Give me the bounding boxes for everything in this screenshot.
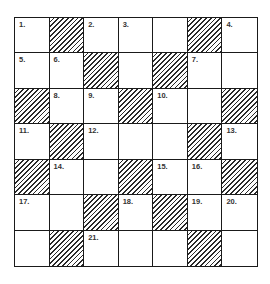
answer-cell[interactable]: 16.: [188, 160, 223, 195]
answer-cell[interactable]: 5.: [15, 53, 50, 88]
blocked-cell: [222, 89, 257, 124]
answer-cell[interactable]: 2.: [84, 18, 119, 53]
answer-cell[interactable]: 13.: [222, 124, 257, 159]
clue-number: 16.: [192, 163, 202, 171]
clue-number: 18.: [123, 198, 133, 206]
clue-number: 19.: [192, 198, 202, 206]
answer-cell[interactable]: [153, 231, 188, 266]
blocked-cell: [50, 18, 85, 53]
answer-cell[interactable]: 1.: [15, 18, 50, 53]
answer-cell[interactable]: 3.: [119, 18, 154, 53]
answer-cell[interactable]: 17.: [15, 195, 50, 230]
answer-cell[interactable]: 10.: [153, 89, 188, 124]
answer-cell[interactable]: 18.: [119, 195, 154, 230]
blocked-cell: [84, 53, 119, 88]
clue-number: 14.: [54, 163, 64, 171]
answer-cell[interactable]: 7.: [188, 53, 223, 88]
clue-number: 13.: [226, 127, 236, 135]
answer-cell[interactable]: [50, 195, 85, 230]
clue-number: 8.: [54, 92, 60, 100]
blocked-cell: [188, 231, 223, 266]
blocked-cell: [188, 124, 223, 159]
clue-number: 2.: [88, 21, 94, 29]
clue-number: 17.: [19, 198, 29, 206]
clue-number: 6.: [54, 56, 60, 64]
answer-cell[interactable]: [15, 231, 50, 266]
clue-number: 12.: [88, 127, 98, 135]
answer-cell[interactable]: [153, 124, 188, 159]
clue-number: 9.: [88, 92, 94, 100]
answer-cell[interactable]: [222, 231, 257, 266]
answer-cell[interactable]: 4.: [222, 18, 257, 53]
answer-cell[interactable]: [119, 53, 154, 88]
answer-cell[interactable]: 12.: [84, 124, 119, 159]
answer-cell[interactable]: [84, 160, 119, 195]
blocked-cell: [119, 89, 154, 124]
answer-cell[interactable]: 20.: [222, 195, 257, 230]
answer-cell[interactable]: 21.: [84, 231, 119, 266]
answer-cell[interactable]: 8.: [50, 89, 85, 124]
clue-number: 4.: [226, 21, 232, 29]
crossword-grid: 1.2.3.4.5.6.7.8.9.10.11.12.13.14.15.16.1…: [14, 17, 258, 267]
answer-cell[interactable]: [119, 124, 154, 159]
blocked-cell: [153, 53, 188, 88]
answer-cell[interactable]: 6.: [50, 53, 85, 88]
blocked-cell: [84, 195, 119, 230]
blocked-cell: [119, 160, 154, 195]
clue-number: 3.: [123, 21, 129, 29]
answer-cell[interactable]: 14.: [50, 160, 85, 195]
blocked-cell: [188, 18, 223, 53]
answer-cell[interactable]: [222, 53, 257, 88]
clue-number: 11.: [19, 127, 29, 135]
clue-number: 15.: [157, 163, 167, 171]
blocked-cell: [222, 160, 257, 195]
blocked-cell: [153, 195, 188, 230]
answer-cell[interactable]: 11.: [15, 124, 50, 159]
answer-cell[interactable]: [119, 231, 154, 266]
answer-cell[interactable]: 9.: [84, 89, 119, 124]
answer-cell[interactable]: [153, 18, 188, 53]
answer-cell[interactable]: 19.: [188, 195, 223, 230]
blocked-cell: [15, 160, 50, 195]
answer-cell[interactable]: [188, 89, 223, 124]
answer-cell[interactable]: 15.: [153, 160, 188, 195]
clue-number: 10.: [157, 92, 167, 100]
blocked-cell: [50, 231, 85, 266]
clue-number: 1.: [19, 21, 25, 29]
clue-number: 7.: [192, 56, 198, 64]
blocked-cell: [15, 89, 50, 124]
clue-number: 5.: [19, 56, 25, 64]
blocked-cell: [50, 124, 85, 159]
clue-number: 21.: [88, 234, 98, 242]
clue-number: 20.: [226, 198, 236, 206]
